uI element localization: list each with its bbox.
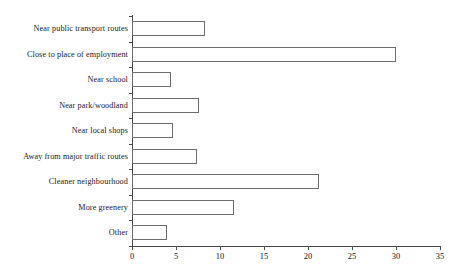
x-axis-tick: [176, 246, 177, 250]
x-axis-tick-label: 5: [161, 252, 191, 261]
bar: [132, 72, 171, 87]
bar-row: Near public transport routes: [132, 16, 440, 42]
category-label: Cleaner neighbourhood: [49, 169, 128, 195]
bar: [132, 225, 167, 240]
bar: [132, 200, 234, 215]
x-axis-tick: [220, 246, 221, 250]
category-label: Near local shops: [72, 118, 128, 144]
x-axis-tick: [264, 246, 265, 250]
x-axis-tick-label: 35: [425, 252, 455, 261]
bar: [132, 149, 197, 164]
y-axis-tick: [129, 118, 133, 119]
bar-row: Close to place of employment: [132, 42, 440, 68]
x-axis-tick: [352, 246, 353, 250]
bar-row: More greenery: [132, 195, 440, 221]
y-axis-tick: [129, 195, 133, 196]
bar-row: Away from major traffic routes: [132, 144, 440, 170]
category-label: Close to place of employment: [27, 42, 128, 68]
x-axis: [132, 246, 441, 247]
y-axis-tick: [129, 169, 133, 170]
category-label: Away from major traffic routes: [23, 144, 128, 170]
y-axis-tick: [129, 42, 133, 43]
y-axis-tick: [129, 67, 133, 68]
category-label: Other: [109, 220, 128, 246]
category-label: Near park/woodland: [59, 93, 128, 119]
y-axis-tick: [129, 220, 133, 221]
x-axis-tick-label: 0: [117, 252, 147, 261]
x-axis-tick: [440, 246, 441, 250]
x-axis-tick-label: 10: [205, 252, 235, 261]
bar-row: Near school: [132, 67, 440, 93]
bar-row: Other: [132, 220, 440, 246]
y-axis-tick: [129, 16, 133, 17]
plot-area: Near public transport routesClose to pla…: [132, 16, 440, 246]
category-label: Near public transport routes: [34, 16, 128, 42]
x-axis-tick: [308, 246, 309, 250]
y-axis-tick: [129, 93, 133, 94]
category-label: Near school: [88, 67, 128, 93]
category-label: More greenery: [78, 195, 128, 221]
bar-chart: Near public transport routesClose to pla…: [0, 0, 463, 272]
x-axis-tick-label: 25: [337, 252, 367, 261]
y-axis-tick: [129, 144, 133, 145]
x-axis-tick: [132, 246, 133, 250]
bar: [132, 21, 205, 36]
x-axis-tick-label: 30: [381, 252, 411, 261]
bar-row: Cleaner neighbourhood: [132, 169, 440, 195]
bar-row: Near park/woodland: [132, 93, 440, 119]
bar: [132, 98, 199, 113]
x-axis-tick-label: 15: [249, 252, 279, 261]
bar: [132, 123, 173, 138]
x-axis-tick-label: 20: [293, 252, 323, 261]
bar: [132, 47, 396, 62]
x-axis-tick: [396, 246, 397, 250]
bar: [132, 174, 319, 189]
bar-row: Near local shops: [132, 118, 440, 144]
